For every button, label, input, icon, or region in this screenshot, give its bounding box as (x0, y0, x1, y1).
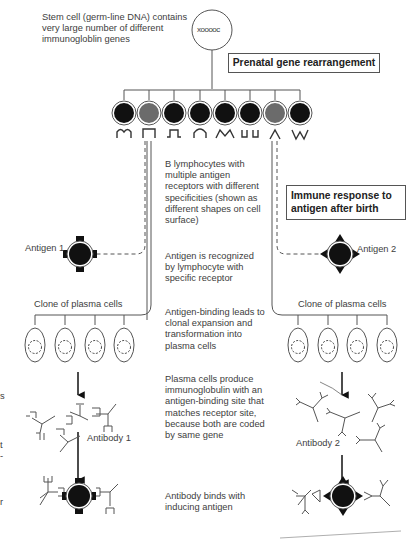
antibody-1-cluster (26, 404, 116, 452)
lymphocyte-1 (112, 101, 136, 125)
edge-fragment-1: s (0, 391, 5, 402)
antigen-1-label: Antigen 1 (25, 243, 64, 254)
immune-response-box: Immune response to antigen after birth (286, 185, 406, 220)
lymphocyte-7 (263, 101, 287, 125)
plasma-cells-right (288, 328, 397, 362)
lymphocyte-2 (137, 101, 161, 125)
lymphocyte-5 (213, 101, 237, 125)
edge-fragment-2: t (0, 440, 3, 451)
right-connector (272, 141, 387, 325)
antibody-1-label: Antibody 1 (87, 433, 131, 444)
plasma-produce-caption: Plasma cells produce immunoglobulin with… (165, 374, 265, 441)
page-edge-line (280, 531, 401, 538)
antibody-binds-caption: Antibody binds with inducing antigen (165, 491, 245, 513)
clonal-expansion-caption: Antigen-binding leads to clonal expansio… (165, 307, 265, 352)
plasma-cells-left (25, 328, 134, 362)
lymphocyte-4 (188, 101, 212, 125)
lymphocyte-tree (124, 90, 300, 100)
antigen-recognized-caption: Antigen is recognized by lymphocyte with… (165, 251, 254, 285)
clone-label-left: Clone of plasma cells (34, 299, 122, 310)
clone-label-right: Clone of plasma cells (298, 299, 386, 310)
stem-cell (192, 10, 232, 89)
stem-cell-caption: Stem cell (germ-line DNA) contains very … (42, 12, 187, 46)
left-connector (35, 141, 151, 325)
prenatal-gene-rearrangement-box: Prenatal gene rearrangement (228, 53, 380, 73)
curve-line (320, 382, 342, 395)
lymphocyte-3 (162, 101, 186, 125)
antigen-2-icon (320, 234, 360, 274)
b-lymphocytes-caption: B lymphocytes with multiple antigen rece… (165, 159, 260, 226)
lymphocyte-8 (288, 101, 312, 125)
receptor-shapes (117, 129, 308, 139)
edge-fragment-3: - (0, 451, 3, 462)
antigen-1-icon (63, 236, 97, 272)
antibody-antigen-complex-1 (40, 476, 118, 514)
edge-fragment-4: r (0, 497, 3, 508)
antigen-2-label: Antigen 2 (357, 244, 396, 255)
antibody-2-label: Antibody 2 (296, 438, 340, 449)
stem-cell-glyph: xooooc (197, 24, 220, 35)
antibody-antigen-complex-2 (292, 476, 390, 516)
lymphocyte-row (112, 101, 312, 125)
lymphocyte-6 (238, 101, 262, 125)
